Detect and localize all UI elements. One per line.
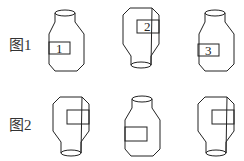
figure1-label: 图1 (9, 37, 32, 53)
tag-number-2: 2 (144, 19, 151, 34)
bottle-1: 1 (49, 10, 84, 71)
bottle-diagram: 图1 1 2 3 图2 (0, 0, 244, 161)
tag-number-3: 3 (205, 43, 212, 58)
tag-box-b (125, 127, 147, 141)
bottle-b (125, 96, 160, 156)
bottle-2: 2 (123, 8, 159, 68)
bottle-a (53, 97, 89, 156)
tag-number-1: 1 (56, 41, 63, 56)
bottle-c (198, 97, 234, 156)
figure2-label: 图2 (9, 117, 32, 133)
tag-box-a (67, 110, 89, 124)
tag-box-c (212, 110, 234, 124)
bottle-3: 3 (198, 10, 234, 71)
